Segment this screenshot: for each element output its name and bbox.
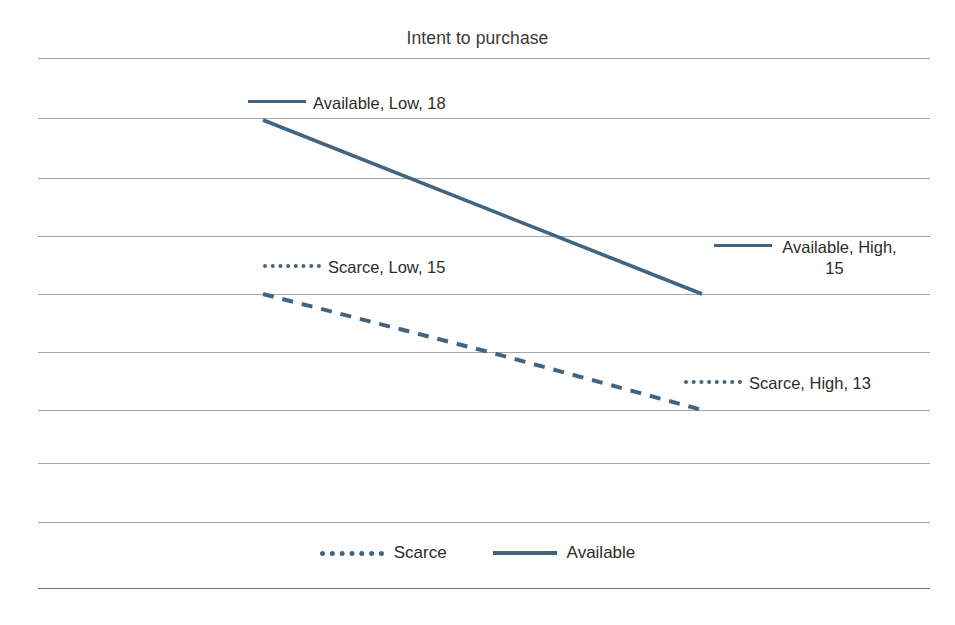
chart-title: Intent to purchase — [0, 28, 955, 49]
gridline — [38, 522, 930, 523]
legend-label: Available — [567, 543, 636, 563]
line-chart: Intent to purchase Available, Low, 18 Av… — [0, 0, 955, 625]
gridline — [38, 118, 930, 119]
gridline — [38, 294, 930, 295]
axis-line-bottom — [38, 588, 930, 589]
data-label-text: Available, High, — [782, 238, 896, 256]
data-label-available-low: Available, Low, 18 — [248, 92, 446, 114]
data-label-available-high: Available, High, 15 — [703, 236, 908, 279]
solid-line-marker-icon — [714, 244, 772, 247]
data-label-text: Scarce, High, 13 — [749, 374, 871, 392]
data-label-scarce-low: Scarce, Low, 15 — [263, 256, 445, 278]
dashed-line-marker-icon — [684, 380, 742, 384]
data-label-text: Scarce, Low, 15 — [328, 258, 445, 276]
data-label-text-continued: 15 — [703, 258, 908, 279]
gridline — [38, 352, 930, 353]
chart-legend: Scarce Available — [0, 543, 955, 563]
legend-label: Scarce — [394, 543, 447, 563]
plot-area — [38, 50, 930, 590]
data-label-text: Available, Low, 18 — [313, 94, 446, 112]
gridline — [38, 178, 930, 179]
legend-item-scarce[interactable]: Scarce — [320, 543, 447, 563]
gridline — [38, 463, 930, 464]
dashed-line-marker-icon — [263, 264, 321, 268]
solid-line-marker-icon — [248, 100, 306, 103]
data-label-scarce-high: Scarce, High, 13 — [684, 372, 871, 394]
solid-line-swatch-icon — [493, 551, 557, 555]
dashed-line-swatch-icon — [320, 551, 384, 556]
gridline — [38, 58, 930, 59]
gridline — [38, 410, 930, 411]
legend-item-available[interactable]: Available — [493, 543, 636, 563]
